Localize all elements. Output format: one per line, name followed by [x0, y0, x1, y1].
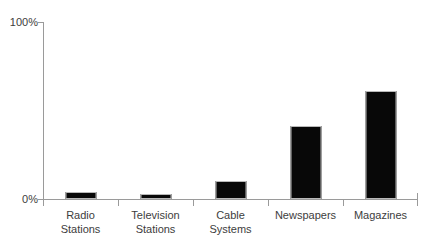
- bar-slot-television-stations: [118, 22, 193, 199]
- bar-slot-cable-systems: [193, 22, 268, 199]
- x-axis-label-radio-stations: Radio Stations: [43, 209, 118, 236]
- plot-area: [43, 22, 418, 199]
- x-axis-tick-5: [417, 200, 418, 206]
- bar-slot-radio-stations: [43, 22, 118, 199]
- x-axis-label-line: Systems: [193, 223, 268, 237]
- bar-magazines: [365, 91, 396, 199]
- x-axis-label-line: Stations: [43, 223, 118, 237]
- bar-chart: 100% 0% Radio Stations T: [0, 0, 432, 252]
- x-axis-line: [43, 199, 418, 200]
- x-axis-label-line: Stations: [118, 223, 193, 237]
- bar-slot-magazines: [343, 22, 418, 199]
- x-axis-label-line: Magazines: [343, 209, 418, 223]
- x-axis-tick-3: [268, 200, 269, 206]
- bar-cable-systems: [215, 181, 246, 199]
- x-axis-label-line: Radio: [43, 209, 118, 223]
- x-axis-label-cable-systems: Cable Systems: [193, 209, 268, 236]
- x-axis-label-magazines: Magazines: [343, 209, 418, 223]
- x-axis-label-newspapers: Newspapers: [268, 209, 343, 223]
- x-axis-label-line: Television: [118, 209, 193, 223]
- bar-newspapers: [290, 126, 321, 199]
- y-axis-label-0: 0%: [2, 194, 38, 205]
- x-axis-category-labels: Radio Stations Television Stations Cable…: [43, 209, 418, 249]
- x-axis-tick-4: [343, 200, 344, 206]
- bar-radio-stations: [65, 192, 96, 199]
- y-axis-label-100: 100%: [2, 17, 38, 28]
- x-axis-label-television-stations: Television Stations: [118, 209, 193, 236]
- x-axis-tick-1: [118, 200, 119, 206]
- bar-slot-newspapers: [268, 22, 343, 199]
- x-axis-tick-0: [43, 200, 44, 206]
- x-axis-tick-2: [193, 200, 194, 206]
- bar-television-stations: [140, 194, 171, 199]
- x-axis-label-line: Cable: [193, 209, 268, 223]
- x-axis-label-line: Newspapers: [268, 209, 343, 223]
